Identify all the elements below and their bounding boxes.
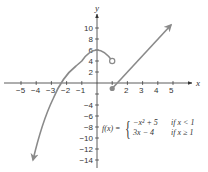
function-name: f(x) = [102, 124, 121, 133]
case-expression: 3x − 4 [133, 128, 171, 138]
y-axis-label: y [94, 3, 99, 13]
svg-text:4: 4 [89, 57, 94, 66]
svg-text:−5: −5 [16, 86, 26, 95]
svg-text:2: 2 [124, 86, 129, 95]
case-condition: if x < 1 [171, 118, 194, 128]
svg-text:−14: −14 [79, 156, 93, 165]
svg-text:−12: −12 [79, 145, 93, 154]
svg-text:4: 4 [154, 86, 159, 95]
svg-text:2: 2 [89, 68, 94, 77]
svg-text:−4: −4 [84, 101, 94, 110]
x-axis-label: x [195, 78, 200, 88]
svg-text:−1: −1 [76, 86, 86, 95]
open-endpoint [110, 58, 115, 63]
svg-text:−10: −10 [79, 134, 93, 143]
svg-text:−3: −3 [46, 86, 56, 95]
svg-text:−8: −8 [84, 123, 94, 132]
case-row: −x² + 5 if x < 1 [133, 118, 194, 128]
parabola-curve [33, 50, 112, 160]
svg-text:−4: −4 [31, 86, 41, 95]
piecewise-function-plot: −5 −4 −3 −2 −1 2 3 4 5 10 8 6 4 2 −4 −6 … [0, 0, 208, 172]
svg-text:8: 8 [89, 35, 94, 44]
case-row: 3x − 4 if x ≥ 1 [133, 128, 194, 138]
svg-text:5: 5 [169, 86, 174, 95]
case-expression: −x² + 5 [133, 118, 171, 128]
svg-text:10: 10 [84, 24, 93, 33]
brace: { [124, 118, 130, 138]
linear-ray [112, 25, 171, 89]
svg-text:−6: −6 [84, 112, 94, 121]
case-condition: if x ≥ 1 [171, 128, 193, 138]
cases: −x² + 5 if x < 1 3x − 4 if x ≥ 1 [133, 118, 194, 138]
svg-text:3: 3 [139, 86, 144, 95]
function-definition: f(x) = { −x² + 5 if x < 1 3x − 4 if x ≥ … [102, 118, 195, 138]
closed-endpoint [110, 86, 115, 91]
svg-text:−2: −2 [61, 86, 71, 95]
